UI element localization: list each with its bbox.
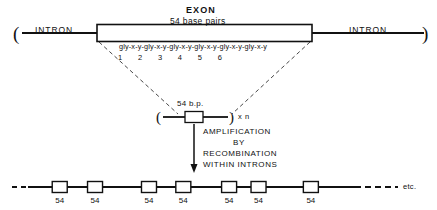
repeat-number-row: 1 2 3 4 5 6 — [118, 53, 222, 62]
unit-multiplier-label: x n — [238, 113, 250, 121]
process-line-within-introns: WITHIN INTRONS — [203, 161, 277, 169]
unit-box — [185, 112, 203, 123]
bottom-unit-label: 54 — [306, 196, 315, 205]
exon-title: EXON — [186, 6, 216, 15]
repeat-number: 1 — [118, 53, 122, 62]
bottom-label-row: 54545454545454 — [0, 196, 437, 208]
bottom-unit-box — [222, 182, 237, 193]
etc-label: etc. — [403, 183, 416, 191]
bottom-unit-label: 54 — [225, 196, 234, 205]
bottom-unit-label: 54 — [254, 196, 263, 205]
process-line-by: BY — [233, 139, 245, 147]
bottom-unit-box — [251, 182, 266, 193]
gene-exon-amplification-diagram: ( ) INTRON INTRON EXON 54 base pairs gly… — [0, 0, 437, 210]
exon-subtitle: 54 base pairs — [170, 17, 226, 26]
gene-close-paren: ) — [422, 24, 428, 43]
repeat-number: 2 — [138, 53, 142, 62]
repeat-number: 4 — [178, 53, 182, 62]
process-line-amplification: AMPLIFICATION — [203, 128, 271, 136]
bottom-box-group — [52, 182, 318, 193]
convergence-line-right — [232, 42, 310, 114]
bottom-unit-label: 54 — [145, 196, 154, 205]
repeat-number: 6 — [218, 53, 222, 62]
bottom-unit-box — [141, 182, 156, 193]
repeat-number: 5 — [198, 53, 202, 62]
glycine-repeat-sequence: gly-x-y-gly-x-y-gly-x-y-gly-x-y-gly-x-y-… — [119, 43, 267, 50]
repeat-number: 3 — [158, 53, 162, 62]
bottom-unit-box — [303, 182, 318, 193]
bottom-unit-label: 54 — [179, 196, 188, 205]
unit-open-paren: ( — [156, 110, 161, 125]
process-line-recombination: RECOMBINATION — [203, 150, 277, 158]
bottom-unit-label: 54 — [55, 196, 64, 205]
exon-box — [97, 25, 312, 42]
bottom-unit-box — [88, 182, 103, 193]
bottom-unit-box — [52, 182, 67, 193]
right-intron-label: INTRON — [349, 26, 387, 35]
process-arrow-head — [191, 164, 198, 173]
gene-open-paren: ( — [13, 24, 19, 43]
bottom-unit-box — [176, 182, 191, 193]
bottom-unit-label: 54 — [91, 196, 100, 205]
unit-size-label: 54 b.p. — [177, 100, 204, 108]
left-intron-label: INTRON — [35, 26, 73, 35]
unit-close-paren: ) — [229, 110, 234, 125]
